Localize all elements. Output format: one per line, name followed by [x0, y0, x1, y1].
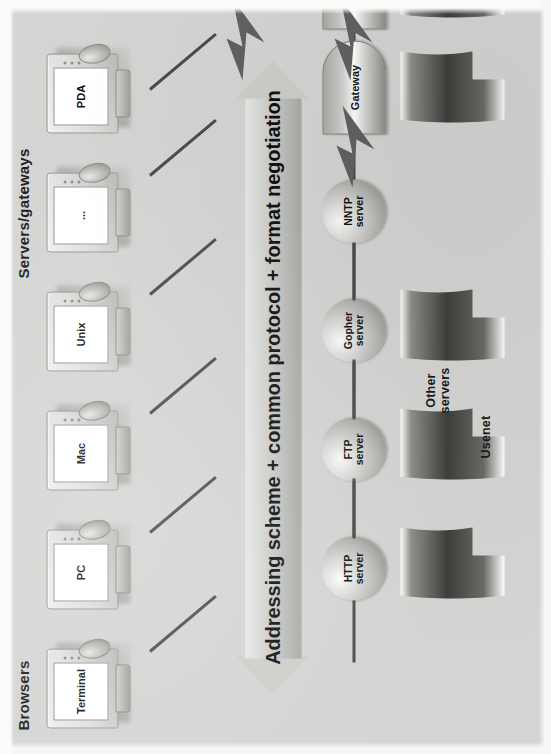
server-label-line2: server: [352, 195, 364, 227]
wire-cloud-1: [352, 478, 355, 538]
lightning-bolt-gateway-1: [330, 0, 376, 82]
wire-cloud-2: [352, 359, 355, 419]
monitor-case: Terminal: [46, 648, 118, 728]
network-cloud-4: [398, 47, 506, 125]
server-label-line2: server: [352, 314, 364, 346]
server-label: NNTP server: [342, 195, 364, 227]
client-label: Unix: [75, 322, 86, 346]
wire-client-3: [149, 357, 217, 415]
servers-gateways-section-label: Servers/gateways: [14, 148, 31, 278]
wire-client-2: [149, 476, 217, 534]
monitor-screen: Mac: [53, 424, 108, 482]
wire-client-6: [149, 33, 217, 91]
client-label: ...: [75, 210, 86, 219]
client-monitor[interactable]: ...: [46, 168, 138, 252]
network-cloud-2: [398, 285, 506, 363]
wire-client-5: [149, 119, 217, 177]
server-label-line2: server: [352, 433, 364, 465]
server-node-http[interactable]: HTTP server: [321, 536, 385, 600]
server-label: HTTP server: [342, 552, 364, 584]
lightning-bolt-usenet: [332, 103, 378, 189]
network-cloud-5: [398, 0, 506, 20]
protocol-arrow: Addressing scheme + common protocol + fo…: [236, 60, 308, 694]
server-label-line1: NNTP: [341, 197, 353, 226]
monitor-case: PC: [46, 529, 118, 609]
client-monitor[interactable]: PC: [46, 525, 138, 609]
other-servers-line1: Other: [424, 360, 438, 420]
wire-client-1: [149, 595, 217, 653]
monitor-case: PDA: [46, 53, 118, 133]
monitor-case: ...: [46, 172, 118, 252]
client-monitor[interactable]: Mac: [46, 406, 138, 490]
client-label: PC: [75, 564, 86, 579]
client-label: PDA: [75, 84, 86, 107]
server-label-line1: HTTP: [341, 554, 353, 581]
monitor-screen: Unix: [53, 305, 108, 363]
client-label: Terminal: [75, 668, 86, 713]
usenet-annotation: Usenet: [478, 415, 492, 458]
server-label: Gopher server: [342, 311, 364, 348]
wire-cloud-3: [352, 242, 355, 300]
client-monitor[interactable]: PDA: [46, 49, 138, 133]
monitor-screen: PC: [53, 543, 108, 601]
monitor-base: [115, 69, 130, 117]
server-label: FTP server: [342, 433, 364, 465]
browsers-section-label: Browsers: [14, 660, 31, 730]
network-cloud-3: [398, 523, 506, 601]
monitor-screen: ...: [53, 186, 108, 244]
wire-client-4: [149, 238, 217, 296]
client-monitor[interactable]: Terminal: [46, 644, 138, 728]
monitor-base: [115, 188, 130, 236]
diagram-page: Browsers Servers/gateways Terminal: [0, 0, 551, 754]
server-node-gopher[interactable]: Gopher server: [321, 298, 385, 362]
server-label-line1: Gopher: [341, 311, 353, 348]
monitor-case: Unix: [46, 291, 118, 371]
server-label-line2: server: [352, 552, 364, 584]
monitor-base: [115, 545, 130, 593]
other-servers-line2: servers: [438, 360, 452, 420]
client-label: Mac: [75, 442, 86, 463]
protocol-arrow-label: Addressing scheme + common protocol + fo…: [236, 60, 308, 694]
wire-server-1: [352, 598, 355, 662]
monitor-base: [115, 426, 130, 474]
lightning-bolt-gateway-2: [222, 0, 268, 82]
server-node-ftp[interactable]: FTP server: [321, 417, 385, 481]
monitor-screen: PDA: [53, 67, 108, 125]
diagram-canvas: Browsers Servers/gateways Terminal: [0, 0, 551, 754]
other-servers-annotation: Other servers: [424, 360, 452, 420]
monitor-base: [115, 307, 130, 355]
server-label-line1: FTP: [341, 439, 353, 459]
client-monitor[interactable]: Unix: [46, 287, 138, 371]
monitor-case: Mac: [46, 410, 118, 490]
monitor-base: [115, 664, 130, 712]
monitor-screen: Terminal: [53, 662, 108, 720]
